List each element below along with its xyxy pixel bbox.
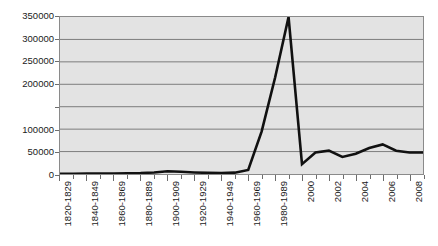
x-axis-tick-label: 1920-1929	[198, 181, 208, 226]
y-axis-tick-label: 350000	[0, 11, 54, 21]
x-axis-tick-mark	[73, 175, 74, 179]
x-axis-tick-label: 1860-1869	[117, 181, 127, 226]
x-axis-tick-label: 1820-1829	[63, 181, 73, 226]
x-axis-tick-label: 1880-1889	[144, 181, 154, 226]
y-axis-tick-label: 100000	[0, 125, 54, 135]
x-axis-tick-label: 1900-1909	[171, 181, 181, 226]
gridlines	[60, 39, 423, 151]
x-axis-tick-label: 2000	[306, 181, 316, 202]
x-axis-tick-label: 1960-1969	[252, 181, 262, 226]
y-axis-tick-label: 250000	[0, 56, 54, 66]
x-axis-tick-label: 2008	[414, 181, 424, 202]
plot-area	[59, 16, 424, 175]
y-axis-tick-label: 200000	[0, 79, 54, 89]
x-axis-tick-mark	[343, 175, 344, 179]
y-axis-tick-label: 300000	[0, 34, 54, 44]
y-axis-tick-label: 50000	[0, 147, 54, 157]
x-axis-tick-label: 1980-1989	[279, 181, 289, 226]
x-axis-tick-label: 2006	[387, 181, 397, 202]
x-axis-tick-mark	[208, 175, 209, 179]
x-axis-tick-label: 1840-1849	[90, 181, 100, 226]
y-axis-tick-label: 0	[0, 170, 54, 180]
data-series-line	[60, 17, 423, 174]
plot-svg	[60, 17, 423, 174]
x-axis-tick-mark	[424, 175, 425, 179]
x-axis-tick-mark	[316, 175, 317, 179]
x-axis-tick-label: 1940-1949	[225, 181, 235, 226]
x-axis-tick-mark	[370, 175, 371, 179]
x-axis-tick-mark	[262, 175, 263, 179]
x-axis-tick-mark	[127, 175, 128, 179]
chart-container: 350000300000250000200000100000500000 182…	[0, 0, 438, 246]
x-axis-tick-label: 2002	[333, 181, 343, 202]
x-axis-tick-mark	[154, 175, 155, 179]
y-axis: 350000300000250000200000100000500000	[0, 0, 54, 246]
x-axis-tick-label: 2004	[360, 181, 370, 202]
x-axis-tick-mark	[100, 175, 101, 179]
x-axis-tick-mark	[289, 175, 290, 179]
x-axis-tick-mark	[235, 175, 236, 179]
x-axis: 1820-18291840-18491860-18691880-18891900…	[59, 181, 424, 243]
x-axis-tick-mark	[181, 175, 182, 179]
x-axis-tick-mark	[397, 175, 398, 179]
